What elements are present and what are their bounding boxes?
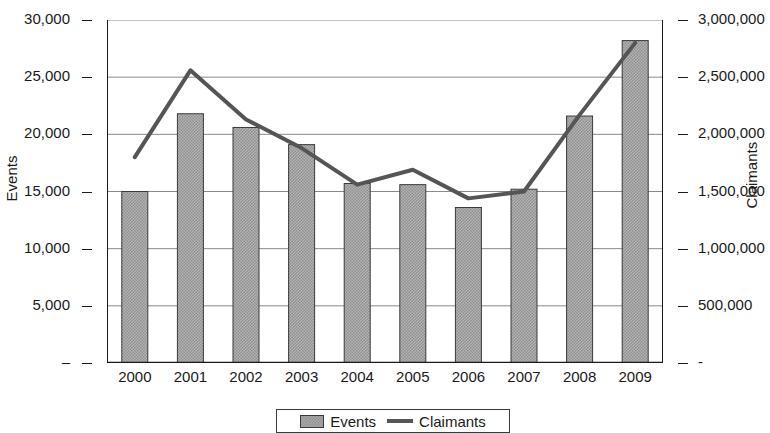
left-tick-mark [82,192,92,193]
bar-series-events [122,41,648,363]
bar-2005 [400,185,426,363]
right-tick-label: 3,000,000 [698,11,765,26]
right-tick-mark [678,77,688,78]
legend-label-events: Events [330,413,376,430]
legend-entry-claimants: Claimants [387,413,486,430]
right-tick-mark [678,363,688,364]
claimants-line [135,43,635,198]
left-axis-tick-labels: –5,00010,00015,00020,00025,00030,000 [0,0,92,433]
bar-2000 [122,192,148,364]
x-tick-label-2004: 2004 [329,368,385,385]
x-tick-label-2000: 2000 [107,368,163,385]
right-tick-mark [678,249,688,250]
line-series-claimants [135,43,635,198]
left-tick-mark [82,363,92,364]
right-axis-tick-labels: -500,0001,000,0001,500,0002,000,0002,500… [678,0,770,433]
x-tick-label-2007: 2007 [496,368,552,385]
right-tick-mark [678,306,688,307]
bar-2009 [622,41,648,363]
legend-label-claimants: Claimants [419,413,486,430]
legend-entry-events: Events [300,413,376,430]
x-tick-label-2009: 2009 [607,368,663,385]
left-tick-label: 10,000 [24,240,70,255]
left-tick-mark [82,134,92,135]
left-tick-label: 15,000 [24,183,70,198]
left-tick-label: 5,000 [32,297,70,312]
right-tick-label: - [698,354,703,369]
right-tick-mark [678,134,688,135]
left-tick-label: 30,000 [24,11,70,26]
x-axis-tick-labels: 2000200120022003200420052006200720082009 [107,368,663,394]
right-tick-label: 1,000,000 [698,240,765,255]
left-tick-mark [82,306,92,307]
x-tick-label-2002: 2002 [218,368,274,385]
bar-2004 [344,183,370,363]
x-tick-label-2006: 2006 [440,368,496,385]
left-tick-label: 20,000 [24,125,70,140]
bar-2003 [289,145,315,363]
chart-legend: Events Claimants [276,409,510,433]
left-tick-label: 25,000 [24,68,70,83]
bar-2008 [567,116,593,363]
chart-container: Events Claimants –5,00010,00015,00020,00… [0,0,770,433]
x-tick-label-2003: 2003 [274,368,330,385]
left-tick-mark [82,77,92,78]
x-tick-label-2005: 2005 [385,368,441,385]
bar-2002 [233,127,259,363]
right-tick-label: 500,000 [698,297,752,312]
legend-bar-swatch-icon [300,415,324,428]
plot-area [107,20,663,363]
right-tick-label: 2,500,000 [698,68,765,83]
bar-2006 [455,208,481,363]
left-tick-mark [82,249,92,250]
right-tick-label: 2,000,000 [698,125,765,140]
right-tick-mark [678,20,688,21]
right-tick-mark [678,192,688,193]
bar-2007 [511,189,537,363]
x-tick-label-2001: 2001 [162,368,218,385]
legend-line-swatch-icon [387,419,413,423]
plot-svg [107,20,663,363]
bar-2001 [177,114,203,363]
right-tick-label: 1,500,000 [698,183,765,198]
left-tick-mark [82,20,92,21]
x-tick-label-2008: 2008 [552,368,608,385]
left-tick-label: – [62,354,70,369]
